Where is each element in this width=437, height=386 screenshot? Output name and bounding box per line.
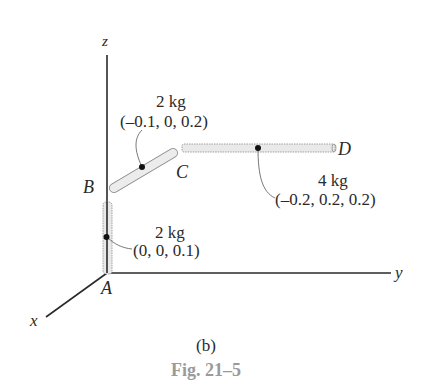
subfigure-label: (b) <box>196 337 216 354</box>
y-axis-label: y <box>395 264 403 281</box>
point-c-label: C <box>176 163 188 181</box>
rod-ab-mass: 2 kg <box>155 224 185 241</box>
rod-ab-center: (0, 0, 0.1) <box>133 242 200 259</box>
rod-cd-mass: 4 kg <box>318 172 348 189</box>
leader-bc <box>136 130 142 167</box>
z-axis-label: z <box>102 34 108 49</box>
x-axis <box>46 273 107 317</box>
center-of-mass-bc <box>139 164 145 170</box>
center-of-mass-ab <box>104 234 110 240</box>
rod-bc-center: (–0.1, 0, 0.2) <box>120 113 208 130</box>
center-of-mass-cd <box>255 145 261 151</box>
rod-bc-mass: 2 kg <box>156 93 186 110</box>
rod-cd-center: (–0.2, 0.2, 0.2) <box>275 191 376 208</box>
figure-caption: Fig. 21–5 <box>171 360 241 381</box>
point-d-label: D <box>338 140 351 158</box>
x-axis-label: x <box>30 312 38 329</box>
rod-bc <box>114 153 173 188</box>
point-b-label: B <box>83 178 94 196</box>
point-a-label: A <box>101 279 112 297</box>
leader-cd <box>258 148 275 198</box>
